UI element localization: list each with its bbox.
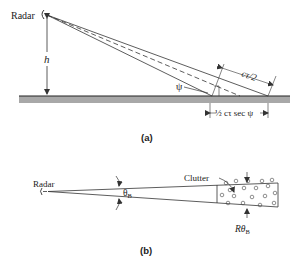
caption-b: (b) — [140, 245, 152, 256]
ground — [19, 96, 290, 103]
grazing-angle-label: ψ — [176, 81, 183, 92]
beam-lower-edge — [47, 15, 212, 96]
ct2-extension-line-right — [268, 76, 276, 96]
beamwidth-arrow-bottom — [116, 199, 119, 210]
clutter-label: Clutter — [184, 173, 209, 183]
beam-upper-edge — [47, 15, 268, 96]
beamwidth-label: θB — [123, 188, 133, 199]
radar-label-a: Radar — [11, 10, 36, 21]
radar-label-b: Radar — [33, 179, 55, 189]
radar-dish-icon — [42, 10, 44, 19]
cross-range-label: RθB — [234, 224, 250, 235]
height-label: h — [44, 53, 50, 65]
caption-a: (a) — [141, 132, 153, 143]
clutter-scatterers — [220, 178, 277, 207]
beam-center-line — [47, 15, 240, 96]
part-a: Radar h ψ cτ/2 ½ cτ sec ψ (a) — [11, 10, 290, 143]
right-angle-mark — [214, 86, 219, 96]
beam-cone-upper — [48, 183, 278, 192]
radar-clutter-diagram: Radar h ψ cτ/2 ½ cτ sec ψ (a) Radar — [0, 0, 294, 260]
radar-dish-icon-b — [41, 188, 43, 195]
beamwidth-arrow-top — [116, 176, 119, 186]
footprint-label: ½ cτ sec ψ — [215, 108, 254, 118]
part-b: Radar θB Clutter RθB (b) — [33, 172, 278, 256]
ct2-extension-line-left — [212, 64, 224, 96]
ct2-label: cτ/2 — [240, 68, 258, 83]
